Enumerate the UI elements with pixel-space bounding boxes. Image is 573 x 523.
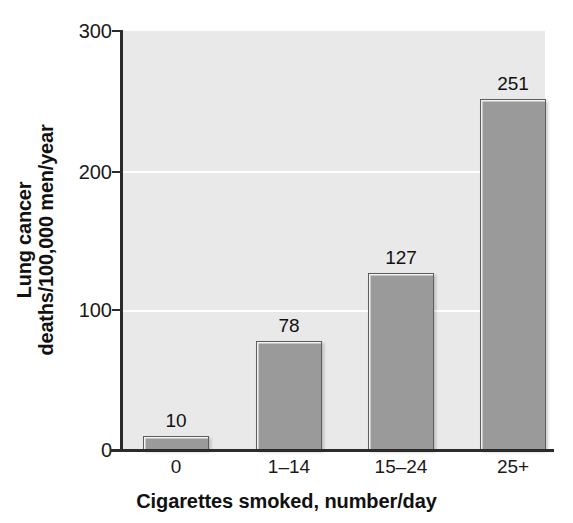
y-axis-title-line-1: Lung cancer — [13, 124, 35, 355]
bar-15-24[interactable] — [368, 273, 434, 450]
bar-value-25-plus: 251 — [497, 73, 529, 95]
y-tick-label-100: 100 — [56, 299, 112, 322]
plot-area — [122, 31, 545, 450]
bar-value-1-14: 78 — [278, 315, 299, 337]
bar-1-14[interactable] — [256, 341, 322, 450]
x-tick-label-1-14: 1–14 — [268, 456, 310, 478]
bar-0[interactable] — [143, 436, 209, 450]
y-tick-label-0: 0 — [56, 439, 112, 462]
bar-25-plus[interactable] — [480, 99, 546, 450]
y-axis-title-text: Lung cancer deaths/100,000 men/year — [13, 124, 58, 355]
y-axis-title-line-2: deaths/100,000 men/year — [35, 124, 57, 355]
chart-figure: Lung cancer deaths/100,000 men/year 300 … — [0, 0, 573, 523]
x-tick-label-0: 0 — [171, 456, 182, 478]
y-tick-label-300: 300 — [56, 20, 112, 43]
bar-value-0: 10 — [165, 410, 186, 432]
bar-value-15-24: 127 — [385, 247, 417, 269]
y-tick-label-200: 200 — [56, 160, 112, 183]
y-axis-tick-labels: 300 200 100 0 — [56, 0, 112, 523]
x-axis-title: Cigarettes smoked, number/day — [0, 490, 573, 513]
x-tick-label-25-plus: 25+ — [497, 456, 529, 478]
x-axis-line — [110, 449, 554, 452]
x-tick-label-15-24: 15–24 — [375, 456, 428, 478]
y-axis-line — [120, 30, 123, 451]
